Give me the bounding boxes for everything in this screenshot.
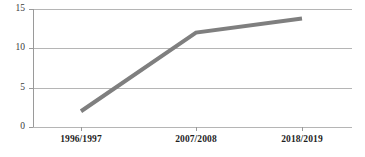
y-tick-label-0: 0 <box>1 122 25 132</box>
line-chart: 051015 1996/19972007/20082018/2019 <box>0 0 365 157</box>
series-line-0 <box>81 18 302 111</box>
y-tick-label-10: 10 <box>1 43 25 53</box>
y-tick-label-5: 5 <box>1 83 25 93</box>
x-tick-label-0: 1996/1997 <box>36 135 126 145</box>
x-tick-label-1: 2007/2008 <box>151 135 241 145</box>
y-axis-tick-marks <box>29 10 33 128</box>
data-series-line <box>81 18 302 111</box>
x-tick-label-2: 2018/2019 <box>257 135 347 145</box>
y-tick-label-15: 15 <box>1 4 25 14</box>
